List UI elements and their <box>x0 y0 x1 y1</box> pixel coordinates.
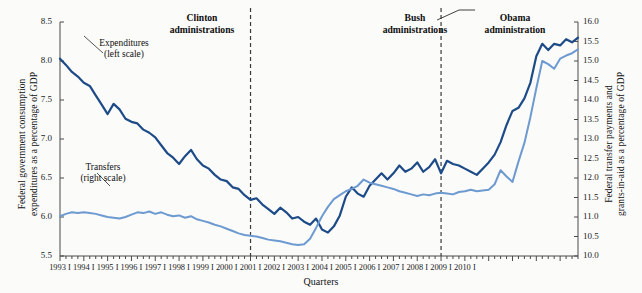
y-tick-label-right: 12.0 <box>583 172 611 182</box>
series-label-transfers-line2: (right scale) <box>57 173 149 184</box>
y-tick-label-right: 10.5 <box>583 231 611 241</box>
y-tick-label-left: 8.0 <box>26 55 52 65</box>
annotation-clinton-line1: Clinton <box>132 12 272 24</box>
annotation-clinton-administrations: Clinton administrations <box>132 12 272 35</box>
y-tick-label-right: 10.0 <box>583 250 611 260</box>
series-label-expenditures-line1: Expenditures <box>78 38 170 49</box>
annotation-obama-administration: Obama administration <box>455 12 575 35</box>
y-tick-label-right: 12.5 <box>583 153 611 163</box>
y-tick-label-left: 5.5 <box>26 250 52 260</box>
y-axis-title-left: Federal government consumption expenditu… <box>16 59 40 229</box>
y-axis-title-left-line2: expenditures as a percentage of GDP <box>28 59 40 229</box>
x-tick-label: 2010 I <box>443 263 487 272</box>
y-tick-label-left: 6.0 <box>26 211 52 221</box>
y-tick-label-right: 13.5 <box>583 114 611 124</box>
series-label-transfers: Transfers (right scale) <box>57 162 149 185</box>
series-label-transfers-line1: Transfers <box>57 162 149 173</box>
y-tick-label-right: 11.5 <box>583 192 611 202</box>
y-tick-label-left: 8.5 <box>26 16 52 26</box>
y-tick-label-right: 15.0 <box>583 55 611 65</box>
annotation-obama-line2: administration <box>455 24 575 36</box>
y-tick-label-left: 7.0 <box>26 133 52 143</box>
x-axis-title: Quarters <box>0 276 642 288</box>
y-tick-label-right: 14.0 <box>583 94 611 104</box>
y-tick-label-right: 11.0 <box>583 211 611 221</box>
y-tick-label-left: 7.5 <box>26 94 52 104</box>
chart-figure: Federal government consumption expenditu… <box>0 0 642 293</box>
y-axis-title-left-line1: Federal government consumption <box>16 59 28 229</box>
series-label-expenditures: Expenditures (left scale) <box>78 38 170 61</box>
annotation-obama-line1: Obama <box>455 12 575 24</box>
y-tick-label-right: 14.5 <box>583 75 611 85</box>
y-tick-label-left: 6.5 <box>26 172 52 182</box>
y-axis-title-right: Federal transfer payments and grants-in-… <box>603 59 627 229</box>
y-tick-label-right: 13.0 <box>583 133 611 143</box>
y-tick-label-right: 15.5 <box>583 36 611 46</box>
series-label-expenditures-line2: (left scale) <box>78 49 170 60</box>
y-axis-title-right-line2: grants-in-aid as a percentage of GDP <box>615 59 627 229</box>
y-tick-label-right: 16.0 <box>583 16 611 26</box>
annotation-clinton-line2: administrations <box>132 24 272 36</box>
y-axis-title-right-line1: Federal transfer payments and <box>603 59 615 229</box>
